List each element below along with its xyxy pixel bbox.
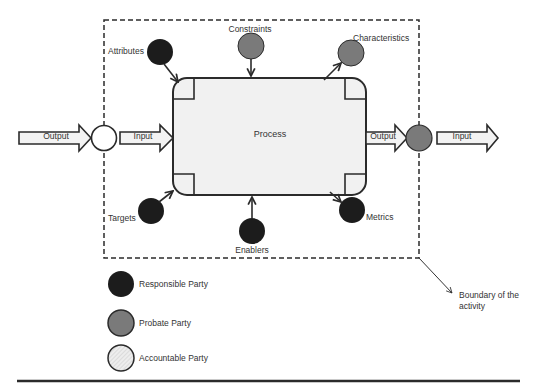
boundary-pointer-arrow [419, 258, 452, 293]
boundary-label-line1: Boundary of the [459, 290, 519, 300]
metrics-node [339, 197, 365, 223]
metrics-label: Metrics [366, 212, 393, 222]
legend-probate-swatch [108, 310, 134, 336]
attributes-label: Attributes [108, 46, 144, 56]
left-output-label: Output [43, 131, 69, 141]
constraints-label: Constraints [229, 24, 272, 34]
process-label: Process [254, 129, 287, 139]
attributes-node [147, 39, 173, 65]
right-input-label: Input [453, 131, 472, 141]
left-input-label: Input [134, 131, 153, 141]
legend-responsible-swatch [108, 271, 134, 297]
legend-responsible-label: Responsible Party [139, 279, 208, 289]
characteristics-label: Characteristics [353, 33, 409, 43]
left-interface-node [92, 126, 117, 151]
legend-accountable-label: Accountable Party [139, 353, 208, 363]
process-diagram [0, 0, 537, 389]
boundary-label-line2: activity [459, 301, 485, 311]
characteristics-node [338, 40, 364, 66]
enablers-label: Enablers [235, 245, 269, 255]
right-output-label: Output [370, 131, 396, 141]
enablers-node [239, 218, 265, 244]
legend-accountable-swatch [108, 345, 134, 371]
legend-probate-label: Probate Party [139, 318, 191, 328]
right-interface-node [406, 125, 432, 151]
targets-label: Targets [108, 213, 136, 223]
constraints-node [238, 33, 264, 59]
